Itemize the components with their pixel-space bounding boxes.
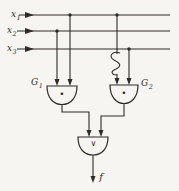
and-symbol-g1: • [59,89,64,99]
arrowhead-into-g2 [115,78,120,85]
gate-label-g2-sub: 2 [149,83,153,91]
input-label-x3: x3 [7,43,16,54]
input-line-x1 [19,12,170,18]
arrowhead-x2 [25,28,34,34]
wire-or-to-output [91,155,96,183]
gate-label-g1: G1 [31,77,42,88]
arrowhead-x3 [25,46,34,52]
wire-x2-to-g1 [55,31,60,86]
input-label-x3-base: x [7,43,12,53]
or-symbol: ∨ [91,138,97,147]
wire-x1-to-g1 [68,15,73,86]
input-label-x1-base: x [11,9,16,19]
gate-label-g1-base: G [31,77,38,87]
input-label-x2-base: x [7,25,12,35]
wire-g1-to-or [62,105,92,138]
wire-x1-to-g2 [111,15,120,85]
input-label-x2: x2 [7,25,16,36]
logic-circuit-diagram: x1 x2 x3 G1 G2 • • ∨ f [0,0,179,191]
gate-label-g2-base: G [141,78,148,88]
arrowhead-output [91,176,96,183]
arrowhead-x1 [25,12,34,18]
arrowhead-into-g1 [55,79,60,86]
output-label-f: f [99,171,103,182]
circuit-wiring [0,0,179,191]
input-label-x1: x1 [11,9,20,20]
input-label-x3-sub: 3 [13,48,17,56]
wire-x3-to-g2 [127,49,132,85]
gate-label-g2: G2 [141,78,152,89]
gate-label-g1-sub: 1 [39,82,43,90]
wire-g2-to-or [99,104,125,138]
arrowhead-into-g2 [127,78,132,85]
arrowhead-into-g1 [68,79,73,86]
squiggle-mark [111,52,120,75]
input-label-x1-sub: 1 [17,14,21,22]
input-label-x2-sub: 2 [13,30,17,38]
and-symbol-g2: • [121,88,126,98]
input-line-x3 [17,46,170,52]
arrowhead-into-or [87,130,92,137]
arrowhead-into-or [99,130,104,137]
input-line-x2 [17,28,170,34]
